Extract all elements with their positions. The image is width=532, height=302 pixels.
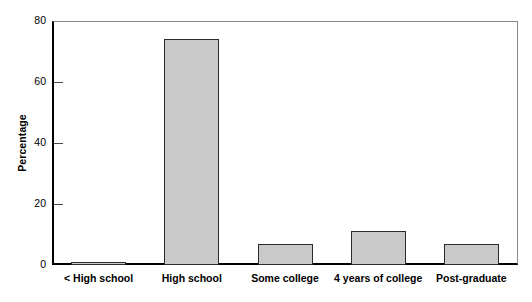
x-tick-label: High school [162, 270, 222, 286]
bar [164, 39, 219, 265]
y-tick-label: 60 [0, 75, 46, 89]
y-tick-label: 40 [0, 136, 46, 150]
y-tick-label: 80 [0, 14, 46, 28]
x-tick-label: Post-graduate [436, 270, 507, 286]
bar-chart: Percentage 020406080 < High schoolHigh s… [0, 0, 532, 302]
y-tick-label: 0 [0, 258, 46, 272]
bar [444, 244, 499, 265]
x-tick-label: 4 years of college [334, 270, 422, 286]
bar [351, 231, 406, 265]
bars-layer [52, 21, 518, 265]
x-tick-label: < High school [64, 270, 133, 286]
y-tick-label: 20 [0, 197, 46, 211]
bar [71, 262, 126, 265]
bar [258, 244, 313, 265]
x-tick-label: Some college [251, 270, 319, 286]
